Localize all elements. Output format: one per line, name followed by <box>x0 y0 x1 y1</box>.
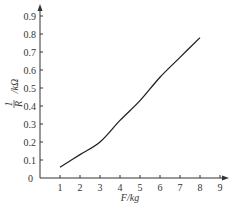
data-line <box>60 38 200 168</box>
x-axis-arrow-icon <box>222 176 229 181</box>
x-axis-label: F/kg <box>120 192 139 203</box>
y-tick-label: 0.4 <box>24 101 37 112</box>
x-tick-label: 3 <box>98 182 103 193</box>
y-ticks: 0.10.20.30.40.50.60.70.80.9 <box>24 11 44 166</box>
axes <box>38 4 230 181</box>
y-tick-label: 0.8 <box>24 29 37 40</box>
x-tick-label: 7 <box>178 182 183 193</box>
y-axis-arrow-icon <box>38 4 43 11</box>
y-tick-label: 0.5 <box>24 83 37 94</box>
x-tick-label: 2 <box>78 182 83 193</box>
y-tick-label: 0.7 <box>24 47 37 58</box>
y-tick-label: 0.1 <box>24 155 37 166</box>
y-tick-label: 0.2 <box>24 137 37 148</box>
line-chart: 123456789 0.10.20.30.40.50.60.70.80.9 0 … <box>0 0 233 209</box>
y-label-denominator: R <box>13 101 24 108</box>
y-tick-label: 0.3 <box>24 119 37 130</box>
y-tick-label: 0.6 <box>24 65 37 76</box>
x-tick-label: 8 <box>198 182 203 193</box>
y-axis-label: 1 R /kΩ <box>3 79 24 108</box>
x-tick-label: 9 <box>218 182 223 193</box>
y-tick-label: 0.9 <box>24 11 37 22</box>
x-tick-label: 6 <box>158 182 163 193</box>
y-label-unit: /kΩ <box>9 79 20 94</box>
x-tick-label: 1 <box>58 182 63 193</box>
origin-label: 0 <box>28 173 33 184</box>
